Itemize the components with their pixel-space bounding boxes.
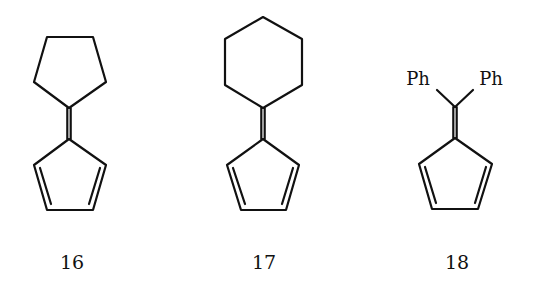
compound-number-17: 17	[252, 253, 276, 272]
ring-double-bond-inner-left	[40, 168, 51, 204]
ring-double-bond-inner-left	[425, 167, 436, 203]
cyclopentadiene-ring	[227, 139, 299, 210]
compound-17-structure	[225, 17, 302, 210]
phenyl-label-left: Ph	[406, 70, 430, 88]
compound-16-structure	[34, 37, 106, 210]
cyclohexane-ring	[225, 17, 302, 108]
phenyl-label-right: Ph	[479, 70, 503, 88]
compound-number-18: 18	[445, 253, 469, 272]
cyclopentadiene-ring	[419, 138, 492, 209]
phenyl-bond-left	[437, 90, 455, 107]
cyclopentadiene-ring	[34, 139, 106, 210]
ring-double-bond-inner-right	[89, 168, 100, 204]
phenyl-bond-right	[455, 90, 473, 107]
compound-number-16: 16	[60, 253, 84, 272]
compound-18-structure	[419, 90, 492, 209]
ring-double-bond-inner-right	[282, 168, 293, 204]
cyclopentane-ring	[34, 37, 106, 108]
structures-canvas	[0, 0, 535, 292]
ring-double-bond-inner-left	[233, 168, 245, 204]
